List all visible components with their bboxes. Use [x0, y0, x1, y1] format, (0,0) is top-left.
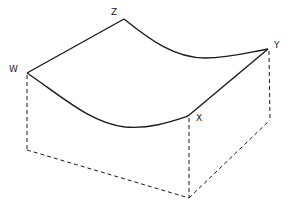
label-z: Z: [111, 8, 117, 17]
edge-w-z: [27, 19, 124, 73]
surface-diagram: [0, 0, 289, 212]
label-w: W: [9, 65, 18, 74]
label-x: X: [196, 114, 202, 123]
edge-x-y: [188, 49, 268, 116]
edge-z-y-curve: [124, 19, 268, 58]
base-left: [27, 150, 189, 198]
vertical-y: [269, 51, 270, 120]
label-y: Y: [274, 41, 280, 50]
base-right: [189, 120, 270, 198]
edge-w-x-curve: [27, 73, 188, 127]
